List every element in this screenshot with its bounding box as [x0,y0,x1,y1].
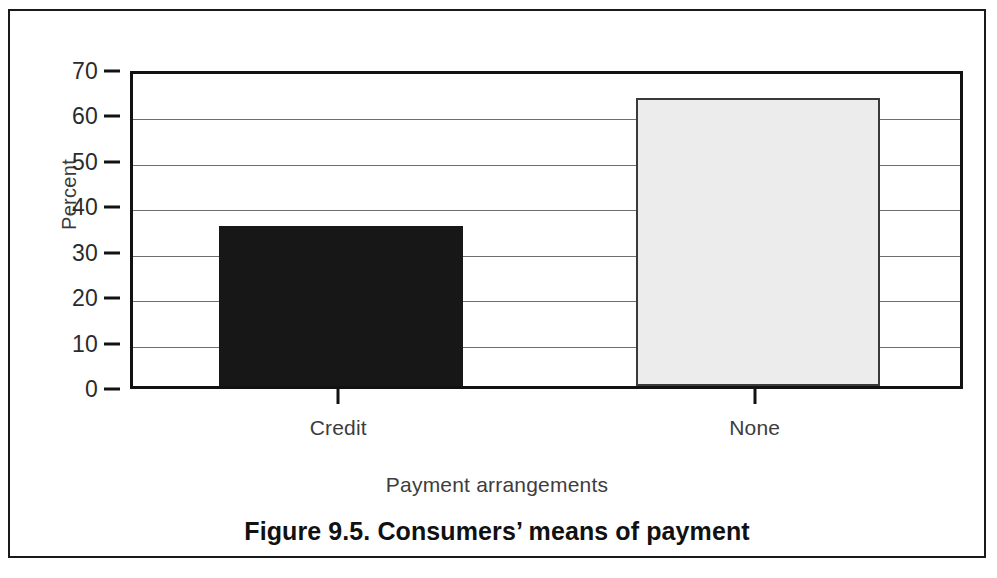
bar-none [636,98,880,386]
figure-caption: Figure 9.5. Consumers’ means of payment [10,517,984,546]
y-tick-mark [104,115,120,118]
y-tick-label: 40 [72,194,98,221]
x-tick-mark [753,389,756,404]
y-tick-mark [104,388,120,391]
figure-root: Percent 010203040506070 CreditNone Payme… [0,0,997,578]
figure-outer-frame: Percent 010203040506070 CreditNone Payme… [8,9,986,558]
y-tick-mark [104,251,120,254]
y-tick-mark [104,297,120,300]
y-tick-label: 10 [72,330,98,357]
y-tick-label: 20 [72,285,98,312]
x-tick-mark [337,389,340,404]
y-tick-label: 30 [72,239,98,266]
x-tick-label: None [729,416,780,440]
y-tick-mark [104,70,120,73]
x-axis-title: Payment arrangements [10,473,984,497]
bar-credit [219,226,463,386]
y-tick-mark [104,342,120,345]
x-tick-label: Credit [310,416,367,440]
y-tick-label: 0 [85,376,98,403]
y-tick-label: 70 [72,58,98,85]
y-tick-label: 60 [72,103,98,130]
y-tick-mark [104,160,120,163]
y-tick-label: 50 [72,148,98,175]
y-tick-mark [104,206,120,209]
plot-inner [133,74,960,386]
plot-area [130,71,963,389]
